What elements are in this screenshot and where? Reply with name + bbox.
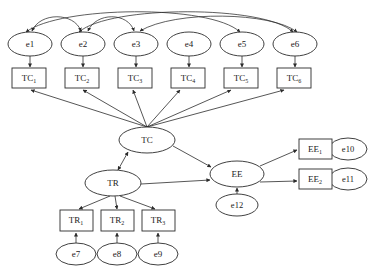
- covariance-arc-e1-e2: [32, 17, 81, 31]
- path-TC-TC5: [147, 90, 231, 127]
- indicator-node-TC5-base: TC: [234, 73, 246, 83]
- indicator-node-TR3-base: TR: [151, 215, 163, 225]
- path-TC-TC4: [147, 90, 180, 127]
- indicator-node-TR3-sub: 3: [162, 220, 165, 226]
- indicator-node-TC5[interactable]: TC5: [224, 68, 258, 88]
- latent-nodes: TC TR EE: [85, 127, 264, 196]
- latent-node-TR-label: TR: [107, 178, 119, 188]
- indicator-node-TC6[interactable]: TC6: [277, 68, 311, 88]
- latent-node-TC-label: TC: [141, 135, 153, 145]
- path-TC-TC6: [147, 90, 284, 127]
- error-node-e11-label: e11: [342, 174, 354, 184]
- indicator-node-TC1[interactable]: TC1: [12, 68, 46, 88]
- indicator-node-TC4[interactable]: TC4: [171, 68, 205, 88]
- indicator-node-TR1[interactable]: TR1: [60, 210, 93, 231]
- error-node-e7[interactable]: e7: [56, 243, 96, 265]
- indicator-node-TC3-sub: 3: [139, 78, 142, 84]
- error-node-e5-label: e5: [238, 39, 247, 49]
- error-node-e8-label: e8: [113, 249, 122, 259]
- path-TC-TC2: [83, 90, 147, 127]
- indicator-node-TC6-base: TC: [287, 73, 299, 83]
- sem-path-diagram: e1 e2 e3 e4 e5 e6 e7 e8: [0, 0, 368, 276]
- error-node-e6[interactable]: e6: [273, 32, 317, 56]
- latent-node-TC[interactable]: TC: [119, 127, 175, 153]
- error-node-e10-label: e10: [342, 144, 354, 154]
- error-node-e4-label: e4: [185, 39, 194, 49]
- indicator-node-EE2-sub: 2: [319, 179, 322, 185]
- indicator-node-TR1-sub: 1: [80, 220, 83, 226]
- error-node-e9-label: e9: [154, 249, 163, 259]
- error-node-e8[interactable]: e8: [97, 243, 137, 265]
- indicator-node-TR2-base: TR: [110, 215, 122, 225]
- error-node-e2-label: e2: [79, 39, 88, 49]
- indicator-node-TC1-sub: 1: [33, 78, 36, 84]
- indicator-node-EE2[interactable]: EE2: [299, 169, 332, 189]
- covariance-arc-e3-e6: [140, 16, 297, 32]
- latent-node-TR[interactable]: TR: [85, 170, 141, 196]
- indicator-node-TC2-base: TC: [75, 73, 87, 83]
- path-TC-EE: [173, 146, 211, 167]
- indicator-node-TC4-sub: 4: [192, 78, 195, 84]
- path-EE-EE2: [260, 181, 297, 182]
- indicator-node-EE1[interactable]: EE1: [299, 139, 332, 159]
- path-TR-TR2: [115, 196, 117, 209]
- error-node-e2[interactable]: e2: [61, 32, 105, 56]
- indicator-node-TR3[interactable]: TR3: [142, 210, 175, 231]
- indicator-node-TC2-sub: 2: [86, 78, 89, 84]
- tr-error-group: [76, 233, 158, 243]
- error-node-e12-label: e12: [231, 200, 243, 210]
- indicator-node-EE1-base: EE: [308, 144, 319, 154]
- indicator-nodes: TC1 TC2 TC3 TC4 TC5: [12, 68, 332, 231]
- indicator-node-TC4-base: TC: [181, 73, 193, 83]
- error-node-e10[interactable]: e10: [329, 138, 367, 160]
- indicator-node-TR2-sub: 2: [121, 220, 124, 226]
- error-node-e11[interactable]: e11: [329, 168, 367, 190]
- indicator-node-TC3-base: TC: [128, 73, 140, 83]
- indicator-node-TC2[interactable]: TC2: [65, 68, 99, 88]
- covariance-arc-group: [26, 12, 297, 32]
- indicator-node-TR2[interactable]: TR2: [101, 210, 134, 231]
- tr-loading-group: [79, 196, 155, 209]
- indicator-node-TC6-sub: 6: [298, 78, 301, 84]
- error-node-e9[interactable]: e9: [138, 243, 178, 265]
- error-node-e3[interactable]: e3: [114, 32, 158, 56]
- path-EE-EE1: [260, 150, 297, 166]
- error-node-e3-label: e3: [132, 39, 141, 49]
- indicator-node-TC1-base: TC: [22, 73, 34, 83]
- path-TR-TR3: [120, 196, 155, 209]
- error-node-e12[interactable]: e12: [216, 194, 258, 216]
- indicator-node-TC3[interactable]: TC3: [118, 68, 152, 88]
- path-TR-TR1: [79, 196, 110, 209]
- tc-loading-group: [31, 90, 284, 127]
- latent-node-EE[interactable]: EE: [210, 161, 264, 187]
- latent-node-EE-label: EE: [232, 169, 243, 179]
- error-node-e4[interactable]: e4: [167, 32, 211, 56]
- error-to-indicator-group: [30, 56, 295, 67]
- indicator-node-EE2-base: EE: [308, 174, 319, 184]
- indicator-node-TC5-sub: 5: [245, 78, 248, 84]
- error-node-e5[interactable]: e5: [220, 32, 264, 56]
- error-node-e7-label: e7: [72, 249, 81, 259]
- path-TC-TC3: [133, 90, 147, 127]
- path-TR-EE: [141, 180, 210, 184]
- error-node-e1-label: e1: [26, 39, 35, 49]
- indicator-node-TR1-base: TR: [69, 215, 81, 225]
- error-node-e1[interactable]: e1: [8, 32, 52, 56]
- error-node-e6-label: e6: [291, 39, 300, 49]
- path-TC-TC1: [31, 90, 147, 127]
- indicator-node-EE1-sub: 1: [319, 149, 322, 155]
- path-TC-TR-bidirectional: [118, 152, 128, 170]
